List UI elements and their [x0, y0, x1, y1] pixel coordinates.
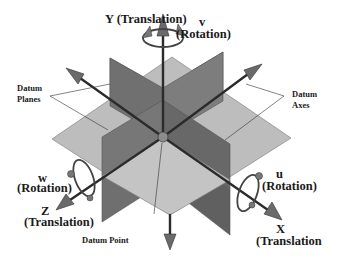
back-right-arrow-icon [244, 64, 262, 80]
back-left-arrow-icon [66, 68, 84, 84]
datum-coordinate-diagram: Y (Translation) v (Rotation) Datum Plane… [0, 0, 345, 266]
x-translation-label: (Translation [256, 234, 322, 248]
u-rotation-label: (Rotation) [262, 179, 317, 193]
datum-axes-label-line1: Datum [292, 89, 317, 99]
z-arrow-icon [56, 194, 74, 210]
x-arrow-icon [264, 202, 282, 220]
w-rotation-label: (Rotation) [17, 181, 72, 195]
v-rotation-label: (Rotation) [176, 27, 231, 41]
datum-planes-label-line2: Planes [17, 94, 41, 104]
datum-point [158, 132, 168, 142]
datum-point-label: Datum Point [82, 235, 129, 245]
datum-axes-label-line2: Axes [292, 100, 310, 110]
datum-planes-label-line1: Datum [17, 83, 42, 93]
z-translation-label: (Translation) [24, 215, 94, 229]
y-translation-label: Y (Translation) [105, 12, 187, 26]
down-arrow-icon [164, 234, 176, 250]
